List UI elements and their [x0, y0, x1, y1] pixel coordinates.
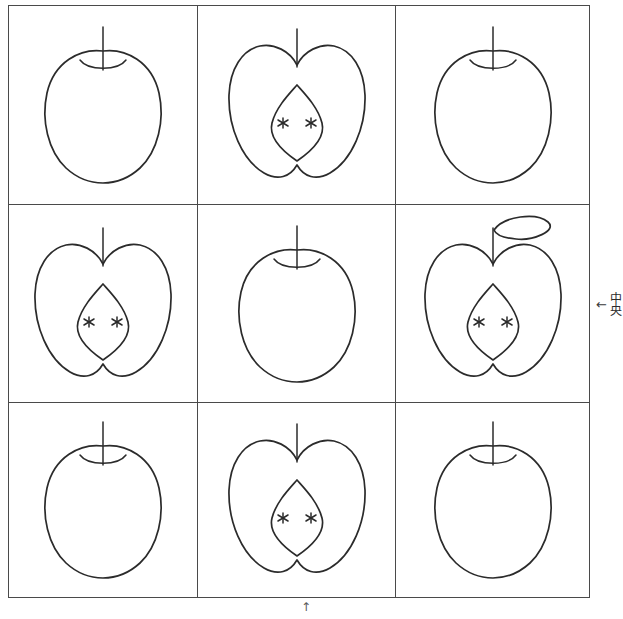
- grid-cell-row-2-col-2[interactable]: [198, 205, 396, 403]
- center-annotation-label: 中央: [608, 292, 621, 316]
- halved-apple-illustration: [212, 410, 382, 590]
- halved-apple-with-leaf-illustration: [408, 214, 578, 394]
- grid-cell-row-3-col-3[interactable]: [396, 403, 589, 597]
- arrow-up-icon: ↑: [301, 600, 311, 614]
- grid-cell-row-2-col-3[interactable]: [396, 205, 589, 403]
- illustration-canvas: ← 中央 ↑: [0, 0, 623, 619]
- whole-apple-illustration: [212, 214, 382, 394]
- whole-apple-illustration: [18, 410, 188, 590]
- bottom-annotation: ↑: [298, 601, 314, 613]
- arrow-left-icon: ←: [596, 298, 607, 311]
- center-annotation: ← 中央: [596, 292, 621, 316]
- grid-cell-row-1-col-3[interactable]: [396, 6, 589, 205]
- halved-apple-illustration: [18, 214, 188, 394]
- whole-apple-illustration: [408, 410, 578, 590]
- apple-grid: [8, 5, 590, 598]
- grid-cell-row-1-col-2[interactable]: [198, 6, 396, 205]
- whole-apple-illustration: [18, 15, 188, 195]
- grid-cell-row-1-col-1[interactable]: [9, 6, 198, 205]
- grid-cell-row-3-col-2[interactable]: [198, 403, 396, 597]
- halved-apple-illustration: [212, 15, 382, 195]
- whole-apple-illustration: [408, 15, 578, 195]
- grid-cell-row-2-col-1[interactable]: [9, 205, 198, 403]
- grid-cell-row-3-col-1[interactable]: [9, 403, 198, 597]
